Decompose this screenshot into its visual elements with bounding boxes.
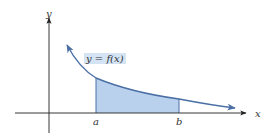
area-under-curve-diagram: y = f(x) y x a b xyxy=(0,0,280,137)
lower-bound-label-a: a xyxy=(93,116,99,127)
y-axis-label: y xyxy=(45,8,52,19)
x-axis-label: x xyxy=(255,108,261,119)
upper-bound-label-b: b xyxy=(176,116,182,127)
curve-label: y = f(x) xyxy=(85,53,124,64)
